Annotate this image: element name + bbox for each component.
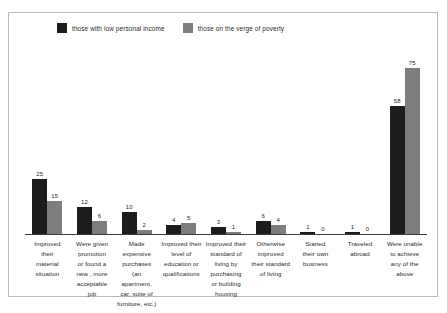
bars-region: 251512610245316410105875 (25, 43, 427, 234)
category-label-line: Traveled (340, 239, 381, 249)
bar-rect (390, 106, 405, 234)
bar-value-label: 4 (276, 217, 279, 223)
bar-rect (32, 179, 47, 234)
bar-group: 10 (338, 43, 383, 234)
plot-area: 251512610245316410105875 Improvedtheirma… (25, 43, 427, 296)
bar-rect (122, 212, 137, 234)
category-label: Madeexpensivepurchases(an apartment,car,… (114, 236, 159, 309)
category-label-line: Improved their (206, 239, 247, 249)
category-axis-labels: ImprovedtheirmaterialsituationWere given… (25, 236, 427, 309)
chart-legend: those with low personal income those on … (9, 23, 437, 33)
bar: 1 (345, 43, 360, 234)
category-label-line: purchases (116, 259, 157, 269)
category-label-line: business (295, 259, 336, 269)
bar: 15 (47, 43, 62, 234)
bar-rect (256, 221, 271, 234)
bar: 25 (32, 43, 47, 234)
bar-value-label: 2 (142, 222, 145, 228)
category-label-line: level of (161, 249, 202, 259)
bar-value-label: 5 (187, 215, 190, 221)
bar-rect (77, 207, 92, 234)
bar-value-label: 58 (394, 98, 401, 104)
bar-group: 10 (293, 43, 338, 234)
category-label-line: improved (250, 249, 291, 259)
category-label-line: abroad (340, 249, 381, 259)
category-label-line: material (27, 259, 68, 269)
category-label-line: education or (161, 259, 202, 269)
category-label-line: Were given (72, 239, 113, 249)
bar-value-label: 12 (81, 199, 88, 205)
category-label-line: their (27, 249, 68, 259)
category-label-line: Made (116, 239, 157, 249)
bar: 1 (226, 43, 241, 234)
category-label-line: of living (250, 269, 291, 279)
bar-rect (47, 201, 62, 234)
chart-frame: those with low personal income those on … (8, 12, 438, 297)
category-label: Startedtheir ownbusiness (293, 236, 338, 269)
bar: 5 (181, 43, 196, 234)
category-label-line: or found a (72, 259, 113, 269)
bar-value-label: 0 (321, 226, 324, 232)
bar-value-label: 1 (306, 224, 309, 230)
category-label-line: any of the (384, 259, 425, 269)
category-label-line: their own (295, 249, 336, 259)
bar-group: 5875 (382, 43, 427, 234)
legend-swatch-gray-icon (183, 23, 193, 33)
bar: 2 (137, 43, 152, 234)
bar-value-label: 25 (36, 171, 43, 177)
legend-swatch-dark-icon (57, 23, 67, 33)
bar-value-label: 15 (51, 193, 58, 199)
category-label-line: to achieve (384, 249, 425, 259)
category-label-line: Improved their (161, 239, 202, 249)
x-axis-line (25, 234, 427, 235)
category-label: Traveledabroad (338, 236, 383, 259)
bar-rect (166, 225, 181, 234)
bar: 10 (122, 43, 137, 234)
bar: 12 (77, 43, 92, 234)
bar-group: 126 (70, 43, 115, 234)
legend-entry-low-personal-income: those with low personal income (57, 23, 165, 33)
bar: 58 (390, 43, 405, 234)
category-label-line: furniture, etc.) (116, 299, 157, 309)
bar-rect (271, 225, 286, 234)
category-label-line: situation (27, 269, 68, 279)
category-label: Otherwiseimprovedtheir standardof living (248, 236, 293, 279)
bar-rect (181, 223, 196, 234)
bar-value-label: 0 (366, 226, 369, 232)
bar-rect (211, 227, 226, 234)
category-label-line: expensive (116, 249, 157, 259)
category-label-line: new , more (72, 269, 113, 279)
category-label-line: housing (206, 289, 247, 299)
category-label-line: acceptable job (72, 279, 113, 299)
category-label-line: Otherwise (250, 239, 291, 249)
bar-value-label: 10 (126, 204, 133, 210)
category-label-line: Were unable (384, 239, 425, 249)
category-label: Improved theirstandard ofliving bypurcha… (204, 236, 249, 299)
bar: 0 (315, 43, 330, 234)
bar-value-label: 3 (217, 219, 220, 225)
bar-value-label: 1 (232, 224, 235, 230)
category-label-line: standard of (206, 249, 247, 259)
bar: 1 (300, 43, 315, 234)
category-label-line: (an apartment, (116, 269, 157, 289)
category-label: Were unableto achieveany of theabove (382, 236, 427, 279)
bar-value-label: 1 (351, 224, 354, 230)
category-label-line: their standard (250, 259, 291, 269)
bar-value-label: 6 (261, 213, 264, 219)
bar-rect (405, 68, 420, 234)
bar: 3 (211, 43, 226, 234)
bar-group: 2515 (25, 43, 70, 234)
bar-group: 45 (159, 43, 204, 234)
category-label-line: or building (206, 279, 247, 289)
category-label-line: Started (295, 239, 336, 249)
category-label-line: car, suite of (116, 289, 157, 299)
bar-group: 64 (248, 43, 293, 234)
legend-label: those on the verge of poverty (198, 25, 285, 32)
category-label-line: living by (206, 259, 247, 269)
bar: 0 (360, 43, 375, 234)
category-label-line: Improved (27, 239, 68, 249)
category-label: Improved theirlevel ofeducation orqualif… (159, 236, 204, 279)
legend-label: those with low personal income (72, 25, 165, 32)
category-label-line: above (384, 269, 425, 279)
bar-value-label: 6 (98, 213, 101, 219)
